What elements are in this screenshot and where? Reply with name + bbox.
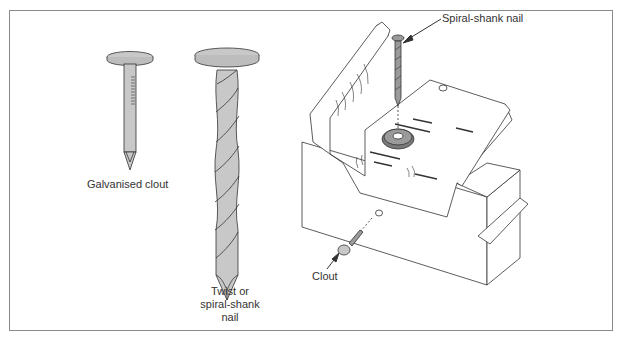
galvanised-clout-label: Galvanised clout (87, 178, 168, 191)
diagram-canvas (0, 0, 622, 339)
twist-nail-icon (195, 48, 259, 300)
washer-icon (382, 129, 414, 149)
twist-nail-label-line2: spiral-shank (195, 298, 265, 311)
twist-nail-label-line1: Twist or (195, 285, 265, 298)
twist-nail-label: Twist or spiral-shank nail (195, 285, 265, 324)
roof-clip-assembly (302, 19, 528, 285)
galvanised-clout-icon (107, 52, 153, 171)
spiral-shank-nail-label: Spiral-shank nail (442, 12, 523, 25)
clout-label: Clout (312, 270, 338, 283)
twist-nail-label-line3: nail (195, 311, 265, 324)
